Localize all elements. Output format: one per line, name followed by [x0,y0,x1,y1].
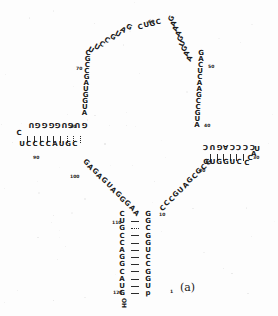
nucleotide: C [235,142,242,150]
scan-speck [59,167,60,168]
base-pair-tick [80,136,81,143]
scan-speck [53,215,55,217]
scan-speck [51,222,52,223]
nucleotide: C [71,141,78,149]
position-number: 50 [208,64,214,69]
scan-speck [109,125,110,126]
scan-speck [139,73,140,74]
position-number: 10 [159,212,165,217]
scan-speck [4,188,5,189]
scan-speck [38,192,40,194]
scan-speck [268,143,269,144]
scan-speck [110,165,111,166]
position-number: 20 [199,168,205,173]
scan-speck [4,302,5,303]
nucleotide: C [229,142,236,150]
scan-speck [71,212,73,214]
scan-speck [12,142,13,143]
nucleotide: p [145,290,152,298]
nucleotide: G [54,120,61,128]
scan-speck [132,165,133,166]
scan-speck [186,91,188,93]
position-number: 90 [33,155,39,160]
scan-speck [123,44,124,45]
three-prime-oh-label: OH [121,298,127,308]
scan-speck [65,246,66,247]
base-pair-tick [131,228,139,229]
position-number: 110 [112,220,121,225]
nucleotide: G [48,120,55,128]
scan-speck [5,74,6,75]
scan-speck [21,123,22,124]
scan-speck [247,293,249,295]
scan-speck [154,181,155,182]
base-pair-tick [131,279,139,280]
nucleotide: C [202,142,209,150]
panel-label: (a) [180,281,195,294]
base-pair-tick [131,293,139,294]
nucleotide: U [61,120,68,128]
scan-speck [73,86,74,87]
nucleotide: G [34,120,41,128]
scan-speck [104,143,105,144]
nucleotide: C [242,142,249,150]
scan-speck [240,42,241,43]
scan-speck [218,38,219,39]
scan-speck [152,202,153,203]
scan-speck [134,2,135,3]
scan-speck [53,10,54,11]
nucleotide: G [41,120,48,128]
scan-speck [203,252,205,254]
scan-speck [132,232,133,233]
position-number: 80 [70,124,76,129]
nucleotide: C [16,130,23,138]
scan-speck [94,115,95,116]
scan-speck [126,112,127,113]
scan-speck [57,259,58,260]
position-number: 100 [70,174,79,179]
base-pair-tick [131,243,139,244]
rna-structure-figure: GGCGGUCCGGUpCUGCCAGGCAUGCCCGUAGCGCGAUGCC… [0,0,278,316]
scan-speck [1,124,2,125]
scan-speck [37,237,38,238]
base-pair-tick [131,257,139,258]
nucleotide: A [81,110,88,118]
base-pair-tick [131,271,139,272]
nucleotide: G [81,120,88,128]
position-number: 60 [148,19,154,24]
scan-speck [29,17,31,19]
position-number: 40 [204,123,210,128]
position-number: 120 [113,290,122,295]
scan-speck [126,125,127,126]
scan-speck [192,208,194,210]
nucleotide: U [209,142,216,150]
scan-speck [59,230,61,232]
scan-speck [84,297,85,298]
base-pair-tick [131,250,139,251]
position-number: 70 [76,66,82,71]
scan-speck [161,140,162,141]
scan-speck [251,236,252,237]
scan-speck [231,273,232,274]
scan-speck [251,24,252,25]
scan-speck [115,274,117,276]
nucleotide: G [198,50,205,58]
scan-speck [44,136,46,138]
nucleotide: C [243,160,250,168]
scan-speck [59,237,60,238]
scan-speck [161,231,162,232]
position-number: 30 [253,155,259,160]
scan-speck [272,114,274,116]
nucleotide: A [222,142,229,150]
base-pair-tick [131,264,139,265]
nucleotide: C [136,23,145,32]
scan-speck [223,268,224,269]
scan-speck [94,23,95,24]
scan-speck [17,290,18,291]
scan-speck [165,157,166,158]
base-pair-tick [131,235,139,236]
nucleotide: G [216,142,223,150]
position-number: 1 [170,289,173,294]
base-pair-tick [131,221,139,222]
nucleotide: C [236,159,243,167]
